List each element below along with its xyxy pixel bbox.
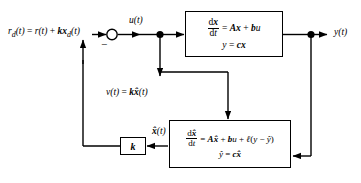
reference-input-label: rd(t) = r(t) + kxd(t) bbox=[8, 26, 80, 39]
observer-equation-2: ŷ = cx̂ bbox=[219, 150, 241, 159]
gain-block-label: k bbox=[131, 141, 136, 152]
output-signal-label: y(t) bbox=[334, 27, 347, 37]
plant-block: dx dt = Ax + bu y = cx bbox=[185, 11, 283, 57]
plant-equation-1-rhs: = Ax + bu bbox=[219, 23, 260, 33]
plant-equation-2: y = cx bbox=[222, 41, 245, 51]
plant-derivative-fraction: dx dt bbox=[208, 18, 220, 39]
observer-block: dx̂ dt = Ax̂ + bu + ℓ(y − ŷ) ŷ = cx̂ bbox=[169, 120, 291, 168]
control-signal-label: u(t) bbox=[129, 15, 143, 25]
plant-equation-1: dx dt = Ax + bu bbox=[208, 18, 261, 39]
observer-equation-1-rhs: = Ax̂ + bu + ℓ(y − ŷ) bbox=[197, 134, 273, 144]
y-branch-node bbox=[307, 31, 314, 38]
observer-derivative-fraction: dx̂ dt bbox=[186, 129, 197, 149]
summing-junction-minus-sign: − bbox=[101, 38, 107, 50]
state-estimate-label: x̂(t) bbox=[152, 126, 166, 136]
u-branch-node bbox=[156, 31, 163, 38]
observer-equation-1: dx̂ dt = Ax̂ + bu + ℓ(y − ŷ) bbox=[186, 129, 273, 149]
summing-junction bbox=[107, 29, 117, 39]
observer-derivative-denominator: dt bbox=[186, 139, 197, 148]
plant-derivative-denominator: dt bbox=[208, 29, 220, 39]
feedback-signal-label: v(t) = kx̂(t) bbox=[106, 87, 148, 97]
gain-block: k bbox=[120, 137, 146, 155]
block-diagram: rd(t) = r(t) + kxd(t) − u(t) y(t) v(t) =… bbox=[0, 0, 361, 183]
